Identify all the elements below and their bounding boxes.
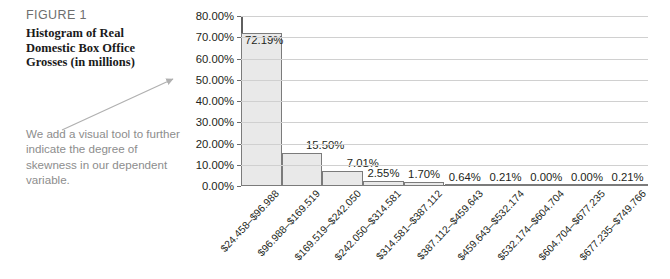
- gridline: [241, 101, 648, 102]
- histogram-bar: [282, 153, 323, 186]
- y-axis-tick-mark: [237, 16, 241, 17]
- gridline: [241, 37, 648, 38]
- skewness-pointer-arrow-icon: [56, 72, 182, 134]
- histogram-bar: [567, 184, 608, 186]
- bar-value-label: 0.00%: [571, 171, 603, 183]
- histogram-bar: [322, 171, 363, 186]
- y-axis-tick-mark: [237, 37, 241, 38]
- annotation-text: We add a visual tool to further indicate…: [26, 126, 181, 188]
- plot-area: 72.19%15.50%7.01%2.55%1.70%0.64%0.21%0.0…: [241, 16, 648, 186]
- gridline: [241, 80, 648, 81]
- gridline: [241, 59, 648, 60]
- x-axis: $24.458–$96.988$96.988–$169.519$169.519–…: [241, 188, 648, 279]
- histogram-bar: [363, 181, 404, 186]
- y-axis-tick-label: 0.00%: [202, 180, 234, 192]
- y-axis-tick-label: 50.00%: [196, 74, 234, 86]
- figure-container: FIGURE 1 Histogram of Real Domestic Box …: [0, 0, 670, 279]
- figure-label: FIGURE 1: [26, 8, 176, 23]
- histogram-bar: [241, 33, 282, 186]
- gridline: [241, 16, 648, 17]
- bar-value-label: 0.21%: [490, 171, 522, 183]
- caption-panel: FIGURE 1 Histogram of Real Domestic Box …: [26, 8, 176, 70]
- y-axis-tick-label: 30.00%: [196, 116, 234, 128]
- y-axis-tick-mark: [237, 122, 241, 123]
- bar-value-label: 0.00%: [530, 171, 562, 183]
- y-axis-tick-mark: [237, 165, 241, 166]
- y-axis-tick-label: 40.00%: [196, 95, 234, 107]
- bar-value-label: 72.19%: [245, 34, 283, 46]
- histogram-bar: [445, 184, 486, 186]
- histogram-bar: [404, 182, 445, 186]
- bar-value-label: 0.64%: [449, 171, 481, 183]
- figure-title: Histogram of Real Domestic Box Office Gr…: [26, 26, 176, 70]
- bar-value-label: 15.50%: [306, 139, 344, 151]
- y-axis-tick-label: 10.00%: [196, 159, 234, 171]
- bar-value-label: 2.55%: [367, 167, 399, 179]
- bar-value-label: 1.70%: [408, 168, 440, 180]
- y-axis-tick-label: 20.00%: [196, 138, 234, 150]
- histogram-chart: 0.00%10.00%20.00%30.00%40.00%50.00%60.00…: [186, 0, 670, 279]
- y-axis-tick-mark: [237, 144, 241, 145]
- y-axis: 0.00%10.00%20.00%30.00%40.00%50.00%60.00…: [186, 0, 238, 196]
- gridline: [241, 144, 648, 145]
- y-axis-tick-mark: [237, 186, 241, 187]
- histogram-bar: [607, 184, 648, 186]
- y-axis-tick-label: 80.00%: [196, 10, 234, 22]
- gridline: [241, 165, 648, 166]
- histogram-bar: [485, 184, 526, 186]
- gridline: [241, 122, 648, 123]
- histogram-bar: [526, 184, 567, 186]
- y-axis-tick-label: 70.00%: [196, 31, 234, 43]
- y-axis-tick-mark: [237, 59, 241, 60]
- y-axis-tick-mark: [237, 101, 241, 102]
- bar-value-label: 0.21%: [612, 171, 644, 183]
- y-axis-tick-mark: [237, 80, 241, 81]
- y-axis-tick-label: 60.00%: [196, 53, 234, 65]
